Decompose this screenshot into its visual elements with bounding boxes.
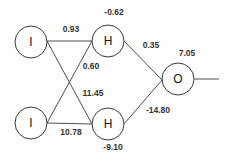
edge-i2-h2 — [47, 123, 92, 124]
bias-output: 7.05 — [179, 48, 196, 58]
edge-h2-o1 — [124, 80, 162, 124]
node-output-label: O — [173, 72, 182, 86]
weight-h1-o1: 0.35 — [143, 40, 160, 50]
node-input-1-label: I — [29, 35, 32, 49]
node-hidden-2-label: H — [104, 117, 113, 131]
network-diagram: I I H H O -0.62 -9.10 7.05 0.93 0.60 11.… — [0, 0, 231, 163]
bias-hidden-1: -0.62 — [104, 7, 124, 17]
node-input-2-label: I — [29, 116, 32, 130]
node-input-2: I — [15, 107, 47, 139]
node-output: O — [162, 63, 194, 95]
weight-i2-h2: 10.78 — [60, 127, 82, 137]
node-hidden-1-label: H — [104, 34, 113, 48]
node-hidden-2: H — [92, 108, 124, 140]
weight-i1-h2: 11.45 — [83, 88, 104, 98]
weight-i2-h1: 0.60 — [83, 61, 100, 71]
weight-h2-o1: -14.80 — [146, 105, 170, 115]
node-hidden-1: H — [92, 25, 124, 57]
weight-i1-h1: 0.93 — [63, 24, 80, 34]
bias-hidden-2: -9.10 — [103, 142, 123, 152]
node-input-1: I — [15, 26, 47, 58]
